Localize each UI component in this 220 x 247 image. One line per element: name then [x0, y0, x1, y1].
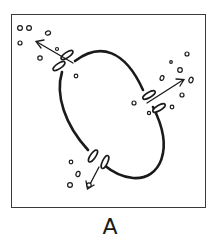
- diagram-figure: A: [0, 0, 220, 247]
- cell-diagram: [0, 0, 220, 247]
- panel-label: A: [0, 214, 220, 239]
